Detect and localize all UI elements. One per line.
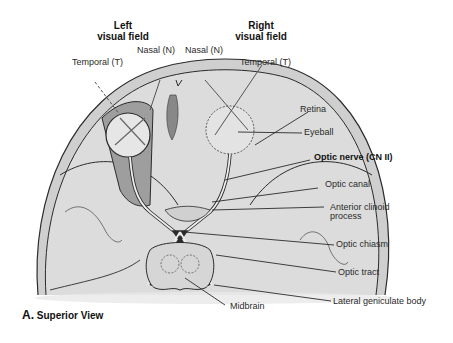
label-eyeball: Eyeball [304, 128, 334, 137]
label-optic-nerve: Optic nerve (CN II) [314, 153, 393, 162]
right-field-line2: visual field [226, 31, 296, 42]
left-field-line2: visual field [88, 31, 158, 42]
label-temporal-left: Temporal (T) [72, 58, 123, 67]
label-optic-canal: Optic canal [325, 180, 370, 189]
left-visual-field-heading: Left visual field [88, 20, 158, 42]
label-nasal-right: Nasal (N) [185, 46, 223, 55]
caption-text: Superior View [37, 310, 104, 321]
midbrain [146, 243, 214, 291]
figure-caption: A. Superior View [22, 308, 103, 322]
label-lateral-geniculate: Lateral geniculate body [333, 297, 426, 306]
label-temporal-right: Temporal (T) [240, 58, 291, 67]
label-optic-chiasm: Optic chiasm [336, 240, 388, 249]
label-retina: Retina [300, 105, 326, 114]
label-midbrain: Midbrain [230, 302, 265, 311]
right-field-line1: Right [226, 20, 296, 31]
caption-letter: A. [22, 308, 34, 322]
label-nasal-left: Nasal (N) [137, 46, 175, 55]
right-visual-field-heading: Right visual field [226, 20, 296, 42]
left-field-line1: Left [88, 20, 158, 31]
label-optic-tract: Optic tract [338, 268, 379, 277]
anatomy-illustration [0, 0, 453, 343]
label-anterior-clinoid: Anterior clinoid process [330, 203, 390, 222]
label-anterior-clinoid-line2: process [330, 212, 390, 221]
